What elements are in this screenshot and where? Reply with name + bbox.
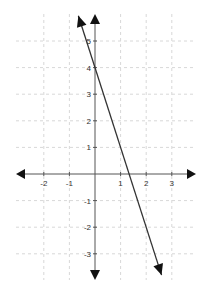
y-tick-label: 1 — [87, 143, 92, 152]
line-start-arrow-icon — [77, 16, 87, 28]
x-tick-label: -1 — [66, 179, 74, 188]
x-axis-right-arrow-icon — [187, 169, 196, 179]
x-tick-label: 2 — [144, 179, 149, 188]
y-tick-label: 4 — [87, 64, 92, 73]
coordinate-plane: -2-112354321-1-2-3 — [0, 0, 209, 293]
y-tick-label: -1 — [84, 197, 92, 206]
y-axis-up-arrow-icon — [90, 14, 100, 24]
line-end-arrow-icon — [153, 263, 163, 275]
grid-lines — [16, 14, 196, 280]
x-tick-label: -2 — [40, 179, 48, 188]
y-tick-label: -3 — [84, 250, 92, 259]
x-tick-label: 1 — [118, 179, 123, 188]
y-tick-label: -2 — [84, 223, 92, 232]
x-tick-label: 3 — [170, 179, 175, 188]
y-tick-label: 2 — [87, 117, 92, 126]
x-axis-left-arrow-icon — [16, 169, 25, 179]
y-tick-label: 3 — [87, 90, 92, 99]
y-axis-down-arrow-icon — [90, 270, 100, 280]
